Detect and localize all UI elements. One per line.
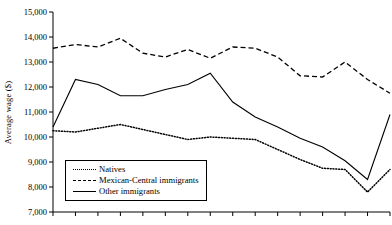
legend-label: Other immigrants <box>99 186 160 197</box>
legend-swatch-dashed <box>71 176 97 185</box>
chart-legend: NativesMexican-Central immigrantsOther i… <box>65 160 207 201</box>
legend-swatch-solid <box>71 187 97 196</box>
chart-figure: Average wage ($) 7,0008,0009,00010,00011… <box>0 0 392 225</box>
legend-item: Other immigrants <box>71 186 199 197</box>
legend-item: Mexican-Central immigrants <box>71 175 199 186</box>
legend-label: Natives <box>99 164 125 175</box>
legend-swatch-dotted <box>71 165 97 174</box>
series-line-mexican-central-immigrants <box>53 38 390 93</box>
legend-label: Mexican-Central immigrants <box>99 175 199 186</box>
legend-item: Natives <box>71 164 199 175</box>
